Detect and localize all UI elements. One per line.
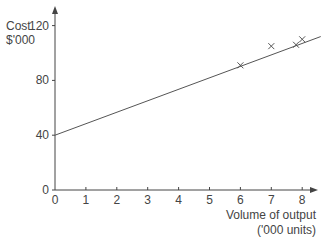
y-tick-label: 40 [36, 128, 50, 142]
cost-volume-chart: 01234567804080120 Cost$'000Volume of out… [0, 0, 323, 243]
data-point-x-marker-icon [268, 43, 274, 49]
y-axis-arrow-icon [52, 6, 58, 14]
x-tick-label: 6 [237, 193, 244, 207]
x-axis-label-unit: ('000 units) [257, 223, 316, 237]
x-axis-arrow-icon [310, 187, 318, 193]
x-tick-label: 2 [113, 193, 120, 207]
x-tick-label: 3 [144, 193, 151, 207]
data-series [55, 36, 321, 135]
chart-canvas: 01234567804080120 Cost$'000Volume of out… [0, 0, 323, 243]
tick-labels: 01234567804080120 [29, 19, 306, 207]
data-point-x-marker-icon [299, 36, 305, 42]
x-tick-label: 4 [175, 193, 182, 207]
y-tick-label: 80 [36, 73, 50, 87]
y-tick-label: 120 [29, 19, 49, 33]
x-tick-label: 1 [83, 193, 90, 207]
y-tick-label: 0 [42, 183, 49, 197]
axes [52, 6, 318, 193]
x-axis-label: Volume of output [226, 208, 317, 222]
best-fit-line [55, 37, 321, 136]
y-axis-label: Cost [6, 19, 31, 33]
y-axis-label-unit: $'000 [6, 33, 35, 47]
x-tick-label: 8 [299, 193, 306, 207]
x-tick-label: 5 [206, 193, 213, 207]
x-tick-label: 0 [52, 193, 59, 207]
x-tick-label: 7 [268, 193, 275, 207]
